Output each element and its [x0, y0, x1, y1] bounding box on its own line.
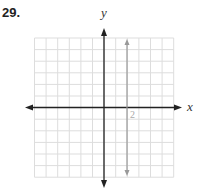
- y-axis-up-arrow-icon: [101, 28, 107, 36]
- x-axis-right-arrow-icon: [174, 105, 182, 111]
- coordinate-plane: [0, 0, 207, 191]
- line-down-arrow-icon: [125, 170, 130, 176]
- y-axis-down-arrow-icon: [101, 180, 107, 188]
- tick-label-2: 2: [130, 109, 135, 120]
- line-up-arrow-icon: [125, 39, 130, 45]
- x-axis-left-arrow-icon: [25, 105, 33, 111]
